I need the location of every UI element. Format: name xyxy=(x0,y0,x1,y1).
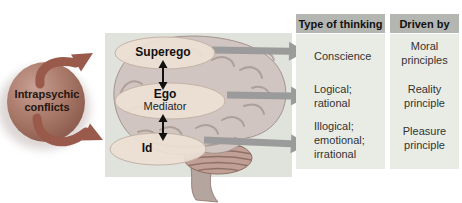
freud-psyche-diagram: Intrapsychic conflicts Superego Ego Medi… xyxy=(0,0,462,203)
cell-moral-principles: Moral principles xyxy=(390,39,459,67)
id-label: Id xyxy=(97,141,197,155)
cell-logical-rational: Logical; rational xyxy=(314,82,383,110)
intrapsychic-conflicts-label: Intrapsychic conflicts xyxy=(2,88,92,113)
ego-label: Ego xyxy=(115,87,215,101)
cell-reality-principle: Reality principle xyxy=(390,82,459,110)
cell-conscience: Conscience xyxy=(314,49,383,63)
superego-label: Superego xyxy=(113,45,213,59)
ego-mediator-label: Mediator xyxy=(115,100,215,112)
cell-pleasure-principle: Pleasure principle xyxy=(390,124,459,152)
cell-illogical-emotional-irrational: Illogical; emotional; irrational xyxy=(314,119,383,161)
column-header-driven-by: Driven by xyxy=(390,14,459,33)
driven-by-column: Moral principles Reality principle Pleas… xyxy=(390,34,459,169)
column-header-type-of-thinking: Type of thinking xyxy=(296,14,385,33)
type-of-thinking-column: Conscience Logical; rational Illogical; … xyxy=(296,34,385,169)
